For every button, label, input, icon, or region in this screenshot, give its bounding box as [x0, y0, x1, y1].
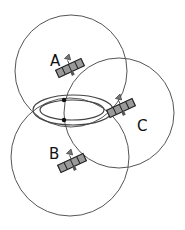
satellite-icon [103, 90, 137, 121]
satellite-label-a: A [50, 52, 61, 70]
intersection-dot [62, 98, 66, 102]
satellites [52, 50, 137, 176]
satellite-label-b: B [49, 145, 59, 163]
satellite-label-c: C [137, 117, 147, 135]
inner-ellipse [40, 100, 104, 120]
intersection-dot [62, 118, 66, 122]
intersection-ellipses [33, 95, 113, 125]
trilateration-diagram: ABC [0, 0, 185, 230]
